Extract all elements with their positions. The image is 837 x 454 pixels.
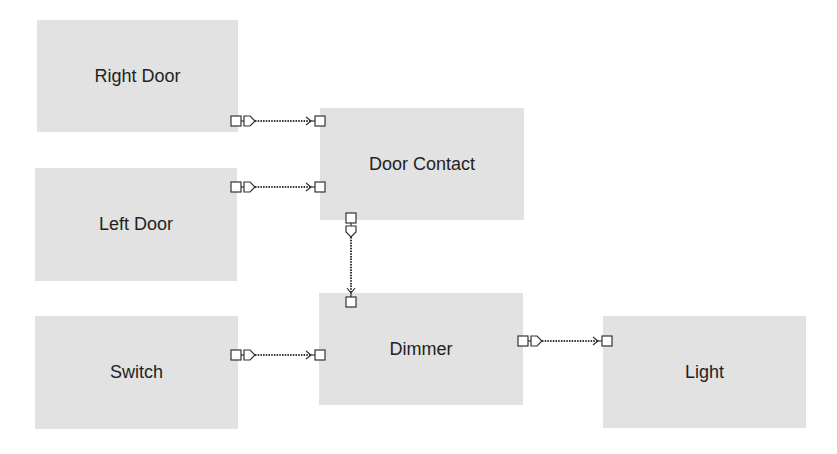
connections-layer (0, 0, 837, 454)
connector-left-door-to-door-contact[interactable] (231, 182, 325, 192)
connector-right-door-to-door-contact[interactable] (231, 116, 325, 126)
connector-switch-to-dimmer[interactable] (231, 350, 325, 360)
connector-door-contact-to-dimmer[interactable] (346, 213, 356, 307)
connector-dimmer-to-light[interactable] (518, 336, 612, 346)
